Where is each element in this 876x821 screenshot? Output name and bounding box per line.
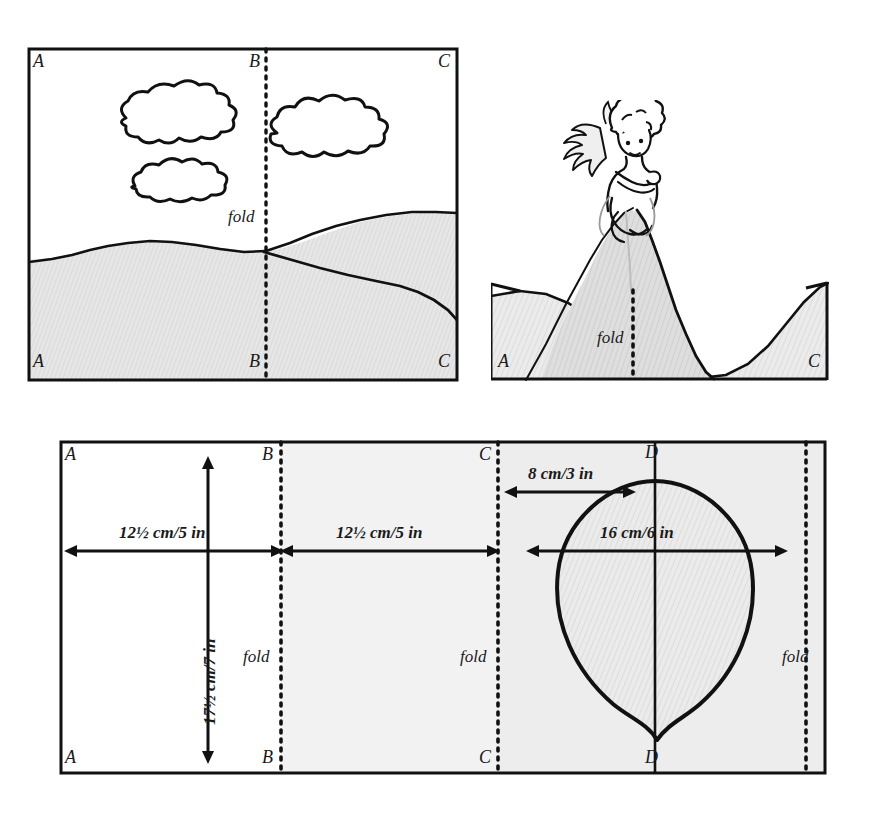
figure-canvas: A B C A B C fold A C fold A B C D A B C … [0, 0, 876, 821]
dimension-label-width-2: 12½ cm/5 in [336, 524, 422, 541]
fold-label-top-left: fold [228, 208, 254, 225]
card-left-top [491, 284, 520, 291]
pattern-measurement-panel [61, 442, 825, 773]
folded-mountain-scene-panel [491, 93, 828, 380]
fairy-hand [647, 172, 660, 185]
dimension-label-balloon-width: 16 cm/6 in [600, 524, 674, 541]
corner-label-c-top-left: C [438, 52, 450, 70]
corner-label-d-pattern-top: D [645, 443, 658, 461]
corner-label-b-pattern-top: B [262, 445, 273, 463]
fairy-face [618, 130, 651, 156]
mountain-shading [541, 210, 710, 380]
fairy-figure [564, 93, 665, 242]
illustration-svg [0, 0, 876, 821]
corner-label-b-top-left: B [249, 52, 260, 70]
corner-label-d-pattern-bottom: D [645, 748, 658, 766]
corner-label-a-top-left: A [33, 52, 44, 70]
fairy-wing-left [564, 124, 606, 176]
corner-label-a-pattern-bottom: A [65, 748, 76, 766]
corner-label-b-bottom-left: B [249, 352, 260, 370]
dimension-label-width-1: 12½ cm/5 in [119, 524, 205, 541]
fold-label-top-right: fold [597, 329, 623, 346]
corner-label-b-pattern-bottom: B [262, 748, 273, 766]
corner-label-c-bottom-left: C [438, 352, 450, 370]
corner-label-c-pattern-bottom: C [479, 748, 491, 766]
corner-label-a-pattern-top: A [65, 445, 76, 463]
fold-label-pattern-1: fold [243, 648, 269, 665]
fold-label-pattern-3: fold [782, 648, 808, 665]
corner-label-c-pattern-top: C [479, 445, 491, 463]
corner-label-a-top-right: A [498, 352, 509, 370]
corner-label-c-top-right: C [808, 352, 820, 370]
fairy-eye [626, 141, 630, 145]
fairy-eye [639, 139, 643, 143]
fold-label-pattern-2: fold [460, 648, 486, 665]
dimension-label-height: 17½ cm/7 in [201, 639, 218, 725]
cloud-shape [132, 159, 227, 202]
corner-label-a-bottom-left: A [33, 352, 44, 370]
dimension-label-balloon-offset: 8 cm/3 in [528, 465, 593, 482]
